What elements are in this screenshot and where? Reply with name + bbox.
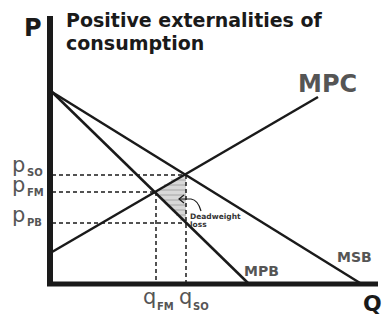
svg-text:SO: SO [27,167,43,178]
mpc-label: MPC [298,70,357,98]
diagram-title-line2: consumption [66,32,204,54]
deadweight-loss-label-line2: loss [190,220,207,229]
diagram-title-line1: Positive externalities of [66,9,323,31]
svg-text:FM: FM [157,301,174,312]
diagram-canvas: Positive externalities of consumption P … [0,0,389,329]
svg-text:p: p [12,173,25,197]
svg-text:q: q [179,285,192,309]
svg-text:FM: FM [27,187,44,198]
msb-curve [52,92,360,283]
mpb-label: MPB [244,263,279,279]
svg-text:SO: SO [193,301,209,312]
quantity-label-q-fm: q FM [143,285,174,312]
mpb-curve [52,92,248,283]
svg-text:PB: PB [27,217,42,228]
y-axis-label: P [24,14,42,42]
price-label-p-pb: p PB [12,203,42,228]
mpc-curve [52,97,318,252]
quantity-label-q-so: q SO [179,285,209,312]
msb-label: MSB [337,249,372,265]
svg-text:p: p [12,203,25,227]
svg-text:q: q [143,285,156,309]
x-axis-label: Q [363,291,382,316]
